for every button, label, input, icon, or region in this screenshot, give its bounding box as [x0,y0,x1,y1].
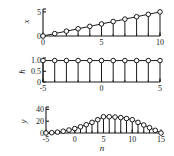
svg-text:5: 5 [100,38,104,47]
subplot-y: y -505101502040 n [0,100,174,156]
svg-text:1.0: 1.0 [31,56,41,65]
svg-text:40: 40 [36,105,44,114]
svg-text:10: 10 [128,135,136,144]
svg-text:0.5: 0.5 [31,67,41,76]
svg-text:5: 5 [158,84,162,93]
svg-text:10: 10 [156,38,164,47]
axis-label-y-signal: y [19,112,28,132]
axis-label-x-signal: x [22,12,31,32]
svg-text:20: 20 [36,117,44,126]
svg-text:0: 0 [37,78,41,87]
svg-text:0: 0 [73,135,77,144]
axis-label-n: n [82,143,122,153]
svg-text:15: 15 [157,135,165,144]
figure-canvas: x 051005 h -50500.51.0 y -505101502040 n [0,0,174,156]
svg-text:0: 0 [41,38,45,47]
axis-label-h-signal: h [18,62,27,82]
subplot-h: h -50500.51.0 [0,50,174,100]
svg-text:0: 0 [100,84,104,93]
subplot-x: x 051005 [0,0,174,50]
svg-text:5: 5 [37,8,41,17]
